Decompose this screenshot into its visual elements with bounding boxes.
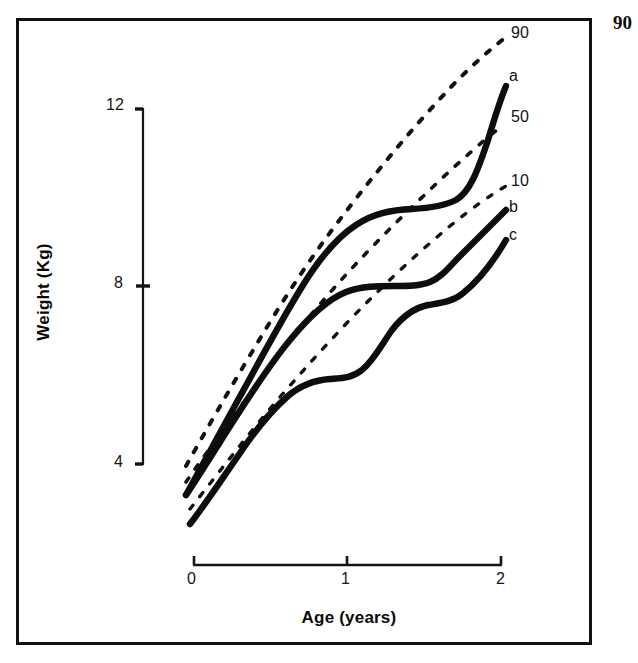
page-number: 90 bbox=[613, 12, 632, 34]
x-tick-label-1: 1 bbox=[341, 570, 350, 588]
y-tick-label-12: 12 bbox=[106, 96, 124, 114]
y-axis-title: Weight (Kg) bbox=[34, 222, 54, 362]
y-tick-label-8: 8 bbox=[114, 274, 123, 292]
series-label-b: b bbox=[509, 198, 518, 216]
x-axis-title: Age (years) bbox=[193, 608, 505, 628]
figure-root: 90 12 8 4 0 1 2 bbox=[0, 0, 638, 663]
series-label-10: 10 bbox=[511, 172, 529, 190]
series-label-a: a bbox=[509, 67, 518, 85]
figure-border bbox=[16, 18, 592, 645]
x-tick-label-0: 0 bbox=[187, 570, 196, 588]
y-tick-label-4: 4 bbox=[114, 453, 123, 471]
series-label-90: 90 bbox=[511, 24, 529, 42]
series-label-50: 50 bbox=[511, 108, 529, 126]
series-label-c: c bbox=[509, 226, 517, 244]
x-tick-label-2: 2 bbox=[496, 570, 505, 588]
